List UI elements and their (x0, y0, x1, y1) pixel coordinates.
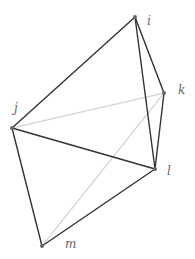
edge-k-l (155, 93, 164, 169)
graph-diagram: ikjlm (0, 0, 195, 259)
vertex-i (133, 15, 137, 19)
vertex-k (162, 91, 166, 95)
edge-j-l (12, 128, 155, 169)
vertex-label-k: k (178, 83, 185, 97)
light-edge-m-k (42, 93, 164, 246)
edge-i-l (135, 17, 155, 169)
edge-j-m (12, 128, 42, 246)
light-edges (12, 93, 164, 246)
vertex-label-j: j (11, 101, 18, 115)
vertex-l (153, 167, 157, 171)
dark-edges (12, 17, 164, 246)
vertex-j (10, 126, 14, 130)
vertex-label-i: i (147, 14, 151, 28)
edge-m-l (42, 169, 155, 246)
edge-i-j (12, 17, 135, 128)
light-edge-j-k (12, 93, 164, 128)
vertex-label-m: m (65, 237, 76, 251)
vertex-m (40, 244, 44, 248)
diagram-svg: ikjlm (0, 0, 195, 259)
vertex-label-l: l (167, 164, 171, 178)
